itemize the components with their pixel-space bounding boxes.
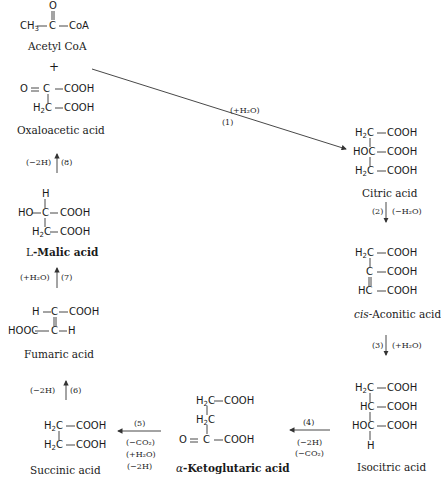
subscript: 3	[35, 25, 39, 33]
oxalo-carbon-1: C	[43, 84, 50, 94]
atom-text: H	[355, 382, 363, 393]
aconitic-h2c: H2C	[355, 248, 374, 258]
acetyl-coa-ch3: CH3	[20, 21, 39, 31]
iso-h: H	[367, 441, 375, 451]
label-isocitric-acid: Isocitric acid	[357, 461, 426, 473]
atom-text: H	[32, 226, 40, 237]
succinic-cooh-2: COOH	[76, 440, 106, 450]
step-1-number: (1)	[222, 118, 233, 127]
oxalo-oxygen: O	[20, 84, 28, 94]
iso-hoc: HOC	[352, 421, 374, 431]
atom-text: C	[367, 382, 374, 393]
atom-text: H	[196, 395, 204, 406]
compound-name: -Ketoglutaric acid	[183, 462, 290, 474]
atom-text: H	[44, 420, 52, 431]
keto-oxygen: O	[179, 435, 187, 445]
aconitic-carbon: C	[366, 267, 373, 277]
step-4-condition-2: (−CO₂)	[295, 449, 324, 458]
aconitic-hc: HC	[358, 286, 373, 296]
label-acetyl-coa: Acetyl CoA	[28, 40, 86, 52]
step-3-number: (3)	[372, 341, 383, 350]
succinic-h2c-1: H2C	[44, 421, 63, 431]
atom-text: C	[367, 165, 374, 176]
atom-text: C	[56, 439, 63, 450]
aconitic-cooh-3: COOH	[387, 286, 417, 296]
stereo-prefix: L	[26, 246, 33, 258]
succinic-h2c-2: H2C	[44, 440, 63, 450]
step-5-condition-2: (+H₂O)	[126, 450, 156, 459]
plus-sign: +	[49, 60, 59, 74]
atom-text: C	[44, 226, 51, 237]
atom-text: H	[196, 414, 204, 425]
step-8-condition: (−2H)	[26, 158, 51, 167]
acetyl-coa-carbon: C	[49, 21, 56, 31]
atom-text: H	[355, 247, 363, 258]
fumaric-carbon-1: C	[51, 307, 58, 317]
iso-cooh-1: COOH	[387, 383, 417, 393]
acetyl-coa-coa: CoA	[69, 21, 89, 31]
compound-name: -Malic acid	[33, 246, 98, 258]
step-5-condition-1: (−CO₂)	[126, 438, 155, 447]
citric-hoc: HOC	[353, 147, 375, 157]
step-6-condition: (−2H)	[30, 386, 55, 395]
step-3-condition: (+H₂O)	[392, 341, 422, 350]
keto-cooh-1: COOH	[224, 396, 254, 406]
atom-text: C	[367, 247, 374, 258]
fumaric-h-1: H	[32, 307, 40, 317]
label-cis-aconitic-acid: cis-Aconitic acid	[354, 308, 441, 320]
acetyl-coa-oxygen: O	[49, 1, 57, 11]
iso-h2c: H2C	[355, 383, 374, 393]
malic-carbon: C	[42, 208, 49, 218]
atom-text: C	[208, 414, 215, 425]
malic-ho: HO	[18, 208, 33, 218]
step-2-condition: (−H₂O)	[392, 207, 422, 216]
atom-text: H	[44, 439, 52, 450]
step-7-condition: (+H₂O)	[20, 273, 50, 282]
malic-h: H	[42, 189, 50, 199]
keto-h2c-1: H2C	[196, 396, 215, 406]
malic-cooh-1: COOH	[60, 208, 90, 218]
atom-text: H	[33, 102, 41, 113]
atom-text: CH	[20, 20, 35, 31]
label-ketoglutaric-acid: α-Ketoglutaric acid	[176, 462, 290, 474]
iso-hc: HC	[360, 402, 375, 412]
step-4-number: (4)	[303, 418, 314, 427]
fumaric-cooh: COOH	[69, 307, 99, 317]
step-5-number: (5)	[134, 419, 145, 428]
malic-cooh-2: COOH	[60, 227, 90, 237]
iso-cooh-2: COOH	[387, 402, 417, 412]
label-citric-acid: Citric acid	[362, 187, 417, 199]
atom-text: H	[355, 127, 363, 138]
step-1-condition: (+H₂O)	[230, 106, 260, 115]
succinic-cooh-1: COOH	[76, 421, 106, 431]
atom-text: H	[355, 165, 363, 176]
citric-h2c-1: H2C	[355, 128, 374, 138]
step-2-number: (2)	[372, 207, 383, 216]
atom-text: C	[367, 127, 374, 138]
citric-cooh-1: COOH	[387, 128, 417, 138]
label-fumaric-acid: Fumaric acid	[24, 348, 94, 360]
fumaric-hooc: HOOC	[8, 326, 38, 336]
label-oxaloacetic-acid: Oxaloacetic acid	[17, 124, 105, 136]
atom-text: C	[56, 420, 63, 431]
iso-cooh-3: COOH	[387, 421, 417, 431]
label-malic-acid: L-Malic acid	[26, 246, 98, 258]
keto-h2c-2: H2C	[196, 415, 215, 425]
aconitic-cooh-1: COOH	[387, 248, 417, 258]
citric-h2c-2: H2C	[355, 166, 374, 176]
step-5-condition-3: (−2H)	[127, 462, 152, 471]
keto-cooh-2: COOH	[224, 435, 254, 445]
keto-carbon: C	[203, 435, 210, 445]
citric-cooh-2: COOH	[387, 147, 417, 157]
oxalo-h2c: H2C	[33, 103, 52, 113]
citric-cooh-3: COOH	[387, 166, 417, 176]
oxalo-cooh-2: COOH	[64, 103, 94, 113]
atom-text: C	[208, 395, 215, 406]
cis-prefix: cis	[354, 308, 369, 320]
step-7-number: (7)	[61, 273, 72, 282]
step-6-number: (6)	[70, 386, 81, 395]
fumaric-h-2: H	[68, 326, 76, 336]
aconitic-cooh-2: COOH	[387, 267, 417, 277]
atom-text: C	[45, 102, 52, 113]
fumaric-carbon-2: C	[51, 326, 58, 336]
